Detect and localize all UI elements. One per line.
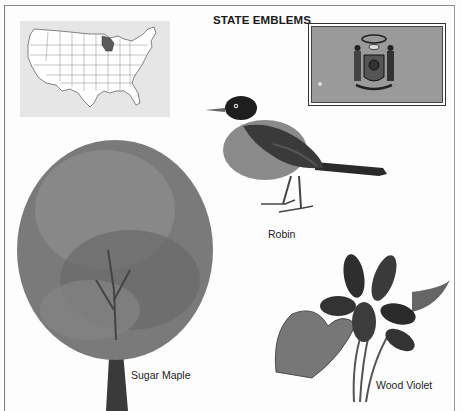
frame-border-left <box>4 5 5 411</box>
frame-border-right <box>454 5 455 411</box>
page-title: STATE EMBLEMS <box>213 14 311 26</box>
robin-illustration <box>203 92 393 226</box>
wood-violet-caption: Wood Violet <box>376 379 432 391</box>
emblems-page: STATE EMBLEMS <box>0 0 462 411</box>
robin-caption: Robin <box>268 228 295 240</box>
robin-icon <box>203 92 393 222</box>
us-map-icon <box>20 21 170 117</box>
us-map <box>20 21 170 117</box>
frame-border-top <box>4 5 455 6</box>
sugar-maple-caption: Sugar Maple <box>131 369 191 381</box>
